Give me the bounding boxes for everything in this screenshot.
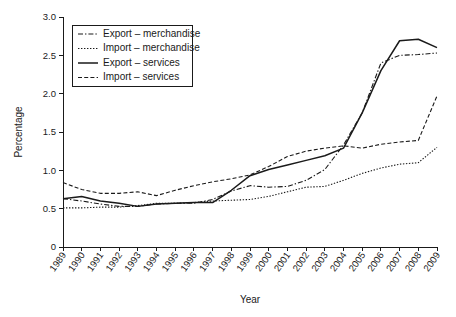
x-tick-label: 1996 xyxy=(178,250,199,274)
y-tick-label: 0 xyxy=(51,241,56,252)
series-line-1 xyxy=(63,147,437,208)
x-tick-label: 1990 xyxy=(66,250,87,274)
x-tick-label: 1995 xyxy=(159,250,180,274)
x-tick-label: 2002 xyxy=(290,250,311,274)
x-tick-label: 2003 xyxy=(309,250,330,274)
chart-figure: 00.51.01.52.02.53.0198919901991199219931… xyxy=(0,0,456,317)
x-tick-label: 2009 xyxy=(421,250,442,274)
x-tick-label: 2004 xyxy=(328,250,349,274)
x-axis-title: Year xyxy=(240,294,261,305)
y-tick-label: 3.0 xyxy=(43,11,56,22)
legend-label-2: Export – services xyxy=(103,57,180,68)
x-tick-label: 1998 xyxy=(215,250,236,274)
legend-label-3: Import – services xyxy=(103,71,179,82)
line-chart: 00.51.01.52.02.53.0198919901991199219931… xyxy=(0,0,456,317)
x-tick-label: 2001 xyxy=(271,250,292,274)
y-tick-label: 1.0 xyxy=(43,165,56,176)
legend-label-0: Export – merchandise xyxy=(103,28,201,39)
x-tick-label: 2008 xyxy=(402,250,423,274)
x-tick-label: 1997 xyxy=(197,250,218,274)
x-tick-label: 1999 xyxy=(234,250,255,274)
x-tick-label: 2006 xyxy=(365,250,386,274)
legend-label-1: Import – merchandise xyxy=(103,42,200,53)
x-tick-label: 1993 xyxy=(122,250,143,274)
y-tick-label: 2.5 xyxy=(43,50,56,61)
x-tick-label: 2007 xyxy=(384,250,405,274)
x-tick-label: 2005 xyxy=(346,250,367,274)
y-tick-label: 1.5 xyxy=(43,126,56,137)
y-tick-label: 2.0 xyxy=(43,88,56,99)
x-tick-label: 1994 xyxy=(141,250,162,274)
y-tick-label: 0.5 xyxy=(43,203,56,214)
x-tick-label: 1992 xyxy=(103,250,124,274)
series-line-3 xyxy=(63,96,437,196)
x-tick-label: 1991 xyxy=(84,250,105,274)
x-tick-label: 2000 xyxy=(253,250,274,274)
x-tick-label: 1989 xyxy=(47,250,68,274)
y-axis-title: Percentage xyxy=(13,106,24,158)
